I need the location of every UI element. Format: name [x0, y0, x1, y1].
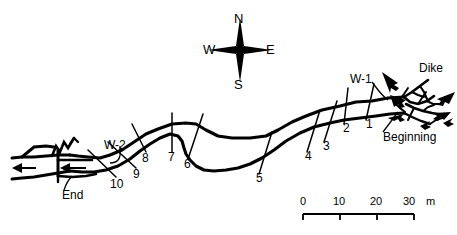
geologic-map-figure: N E S W Dike Beginning End W-1 W-2 1 2 3… — [0, 0, 457, 235]
scale-label-0: 0 — [300, 196, 306, 207]
station-label-2: 2 — [343, 122, 350, 134]
station-section-lines — [88, 84, 374, 177]
scale-label-20: 20 — [370, 196, 382, 207]
station-label-6: 6 — [184, 158, 191, 170]
scale-label-10: 10 — [333, 196, 345, 207]
dike-label: Dike — [419, 62, 443, 74]
well-2-label: W-2 — [104, 139, 126, 151]
station-line-6 — [188, 114, 203, 159]
compass-south-label: S — [234, 78, 243, 91]
dike-flow-arrows — [382, 72, 455, 130]
end-label: End — [62, 189, 83, 201]
station-label-7: 7 — [168, 151, 175, 163]
compass-north-label: N — [234, 12, 243, 25]
well-1-label: W-1 — [350, 73, 372, 85]
station-label-9: 9 — [133, 168, 140, 180]
compass-east-label: E — [266, 43, 275, 56]
scale-label-30: 30 — [403, 196, 415, 207]
station-line-8 — [132, 124, 146, 152]
station-label-10: 10 — [110, 178, 123, 190]
scale-unit-label: m — [426, 196, 435, 207]
station-label-1: 1 — [366, 118, 373, 130]
station-label-8: 8 — [142, 152, 149, 164]
station-label-5: 5 — [256, 172, 263, 184]
compass-rose-star — [208, 18, 272, 82]
scale-bar-graphic — [303, 214, 414, 220]
beginning-label: Beginning — [383, 131, 436, 143]
station-label-3: 3 — [323, 140, 330, 152]
compass-west-label: W — [203, 43, 215, 56]
station-label-4: 4 — [305, 150, 312, 162]
